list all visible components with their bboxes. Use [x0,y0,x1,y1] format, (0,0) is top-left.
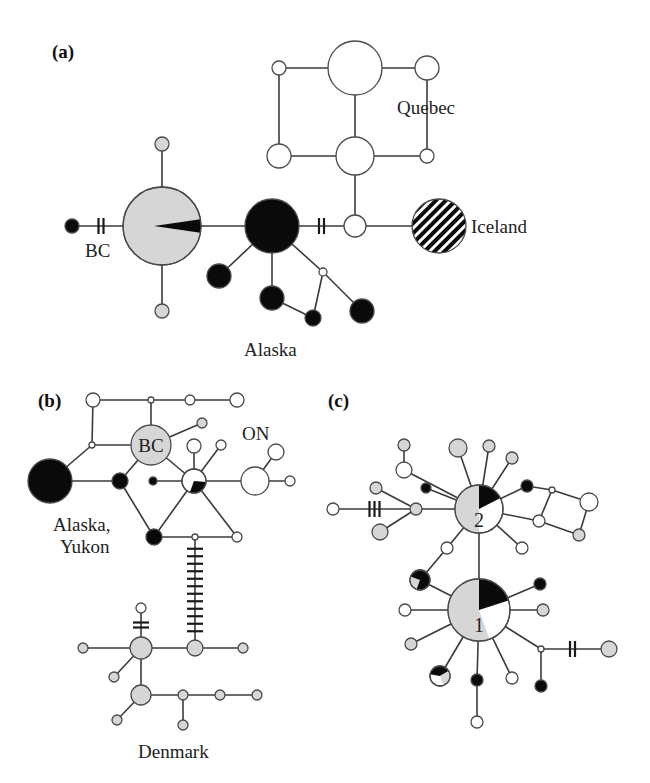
haplotype-node [192,534,198,540]
label-alaska-yukon-1: Alaska, [53,514,111,535]
haplotype-node [146,529,162,545]
haplotype-node [420,149,434,163]
label-quebec: Quebec [397,97,455,118]
haplotype-node [506,672,518,684]
haplotype-node: 1 [448,579,510,641]
haplotype-node [516,542,528,554]
haplotype-node [533,515,545,527]
network-nodes: 21 [28,41,617,730]
haplotype-node [112,473,128,489]
haplotype-node [28,459,72,503]
haplotype-node [197,418,207,428]
label-alaska: Alaska [244,339,297,360]
haplotype-node: 2 [455,485,503,533]
haplotype-node [148,397,154,403]
label-alaska-yukon-2: Yukon [60,536,110,557]
haplotype-node [65,219,79,233]
network-edge [376,488,416,509]
haplotype-node [185,395,195,405]
haplotype-node [449,439,467,457]
haplotype-node [232,532,242,542]
haplotype-node [410,503,422,515]
haplotype-node [399,604,411,616]
haplotype-node [412,199,466,253]
panel-b-label: (b) [38,390,61,412]
node-number-label: 1 [474,614,484,636]
label-bc-a: BC [85,240,110,261]
haplotype-node [471,674,483,686]
haplotype-node [178,720,188,730]
haplotype-node [178,690,188,700]
panel-c-label: (c) [328,390,349,412]
haplotype-node [398,439,410,451]
label-iceland: Iceland [471,216,527,237]
haplotype-network-figure: 21 (a)QuebecIcelandBCAlaska(b)BCONAlaska… [0,0,650,783]
haplotype-node [328,41,382,95]
haplotype-node [471,716,483,728]
haplotype-node [89,442,95,448]
haplotype-node [441,542,453,554]
haplotype-node [187,640,203,656]
haplotype-node [537,604,549,616]
haplotype-node [421,483,431,493]
haplotype-node [112,715,122,725]
network-edge [120,481,154,537]
haplotype-node [327,503,339,515]
haplotype-node [136,603,146,613]
haplotype-node [109,672,119,682]
haplotype-node [207,264,231,288]
haplotype-node [336,137,374,175]
haplotype-node [182,469,206,493]
haplotype-node [123,187,201,265]
panel-a-label: (a) [52,41,74,63]
node-number-label: 2 [474,509,484,531]
haplotype-node [538,646,544,652]
haplotype-node [344,215,366,237]
haplotype-node [245,199,299,253]
label-bc-b: BC [138,435,163,456]
haplotype-node [267,144,291,168]
haplotype-node [396,462,412,478]
haplotype-node [230,393,244,407]
haplotype-node [155,137,169,151]
haplotype-node [410,570,430,590]
haplotype-node [573,529,585,541]
haplotype-node [215,690,225,700]
haplotype-node [372,524,388,540]
haplotype-node [86,393,100,407]
haplotype-node [305,310,321,326]
haplotype-node [241,467,269,495]
haplotype-node [268,444,284,460]
haplotype-node [506,452,518,464]
haplotype-node [319,268,327,276]
haplotype-node [430,666,450,686]
haplotype-node [483,440,495,452]
haplotype-node [405,638,417,650]
haplotype-node [415,56,439,80]
haplotype-node [130,637,152,659]
haplotype-node [549,487,555,493]
haplotype-node [535,680,547,692]
haplotype-node [521,480,533,492]
haplotype-node [580,493,598,511]
haplotype-node [252,690,262,700]
haplotype-node [149,477,157,485]
haplotype-node [216,440,226,450]
haplotype-node [350,299,374,323]
label-on: ON [242,423,270,444]
haplotype-node [272,61,286,75]
label-denmark: Denmark [138,741,209,762]
haplotype-node [285,476,295,486]
haplotype-node [601,641,617,657]
haplotype-node [370,482,382,494]
haplotype-node [238,643,248,653]
haplotype-node [78,643,88,653]
haplotype-node [260,286,284,310]
haplotype-node [187,439,201,453]
haplotype-node [534,578,546,590]
haplotype-node [131,685,151,705]
haplotype-node [155,304,169,318]
